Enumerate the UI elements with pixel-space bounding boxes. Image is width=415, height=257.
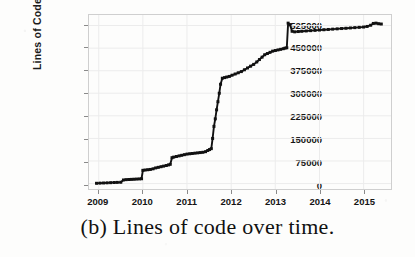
series-marker [214,117,217,120]
series-marker [109,181,112,184]
series-marker [336,27,339,30]
series-marker [178,154,181,157]
x-tick-mark [187,190,188,194]
series-marker [331,28,334,31]
series-marker [196,151,199,154]
series-marker [95,182,98,185]
series-marker [199,151,202,154]
series-marker [349,26,352,29]
series-marker [261,56,264,59]
series-marker [186,153,189,156]
series-marker [127,178,130,181]
x-tick-mark [320,190,321,194]
series-marker [314,29,317,32]
x-tick-mark [276,190,277,194]
series-marker [188,152,191,155]
series-marker [212,125,215,128]
series-marker [135,178,138,181]
series-marker [99,182,102,185]
series-marker [243,68,246,71]
series-marker [288,23,291,26]
series-marker [144,169,147,172]
series-marker [116,181,119,184]
series-marker [234,73,237,76]
series-marker [122,178,125,181]
series-marker [106,181,109,184]
series-marker [231,74,234,77]
series-marker [366,25,369,28]
plot-area [88,14,392,190]
x-tick-mark [98,190,99,194]
series-marker [279,48,282,51]
x-tick-label: 2013 [265,196,286,207]
series-marker [183,153,186,156]
series-marker [266,52,269,55]
series-marker [140,177,143,180]
series-marker [327,28,330,31]
series-marker [210,147,213,150]
series-marker [380,23,383,26]
series-marker [318,29,321,32]
series-marker [258,58,261,61]
series-marker [344,27,347,30]
series-marker [322,28,325,31]
series-marker [219,83,222,86]
series-marker [249,65,252,68]
series-marker [225,76,228,79]
series-marker [152,167,155,170]
series-marker [297,30,300,33]
series-marker [271,50,274,53]
x-tick-label: 2014 [309,196,330,207]
x-tick-mark [231,190,232,194]
series-marker [211,137,214,140]
series-polyline [97,23,382,183]
series-marker [291,30,294,33]
series-marker [159,165,162,168]
series-marker [125,178,128,181]
series-marker [255,60,258,63]
series-marker [113,181,116,184]
y-axis-title: Lines of Code [31,0,43,109]
x-tick-label: 2015 [354,196,375,207]
x-tick-label: 2010 [132,196,153,207]
series-marker [228,75,231,78]
series-marker [102,181,105,184]
series-marker [252,63,255,66]
series-marker [119,181,122,184]
series-marker [191,152,194,155]
series-marker [133,178,136,181]
series-marker [149,168,152,171]
figure-lines-of-code: Lines of Code 07500015000022500030000037… [0,0,415,257]
series-marker [146,168,149,171]
x-tick-mark [364,190,365,194]
x-tick-label: 2011 [176,196,197,207]
x-tick-label: 2012 [221,196,242,207]
series-marker [362,26,365,29]
series-marker [369,24,372,27]
series-marker [340,27,343,30]
series-marker [216,100,219,103]
series-marker [358,26,361,29]
series-marker [374,22,377,25]
series-marker [274,49,277,52]
series-marker [240,70,243,73]
series-marker [293,30,296,33]
series-marker [157,166,160,169]
x-tick-label: 2009 [87,196,108,207]
x-tick-mark [142,190,143,194]
series-marker [169,163,172,166]
series-marker [353,26,356,29]
series-marker [246,66,249,69]
series-marker [215,108,218,111]
series-marker [309,29,312,32]
series-marker [162,165,165,168]
series-marker [201,151,204,154]
figure-caption: (b) Lines of code over time. [0,214,415,240]
series-marker [175,155,178,158]
series-marker [154,166,157,169]
series-marker [377,22,380,25]
series-marker [300,30,303,33]
series-marker [276,48,279,51]
series-marker [372,22,375,25]
series-marker [193,152,196,155]
